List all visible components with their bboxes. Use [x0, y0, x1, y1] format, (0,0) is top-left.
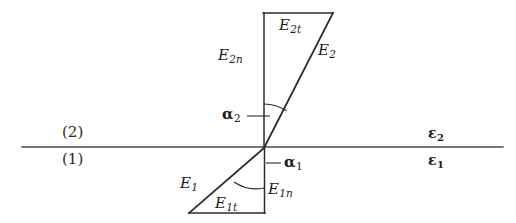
label-epsilon-1: ε1 [428, 153, 444, 170]
label-e2t: E2t [279, 18, 301, 34]
label-e1n: E1n [268, 182, 293, 198]
label-e1t: E1t [215, 196, 237, 212]
label-e1: E1 [180, 176, 198, 192]
label-epsilon-2: ε2 [428, 126, 444, 143]
label-e2n: E2n [218, 48, 243, 64]
label-e2: E2 [318, 43, 336, 59]
label-region-2: (2) [62, 125, 83, 140]
field-refraction-figure: E2t E2n E2 α2 (2) ε2 (1) ε1 α1 E1 E1n E1… [0, 0, 516, 223]
label-region-1: (1) [62, 152, 83, 167]
label-alpha1: α1 [284, 155, 303, 171]
label-alpha2: α2 [222, 107, 241, 123]
angle-arc-alpha1 [234, 182, 265, 189]
figure-canvas [0, 0, 516, 223]
